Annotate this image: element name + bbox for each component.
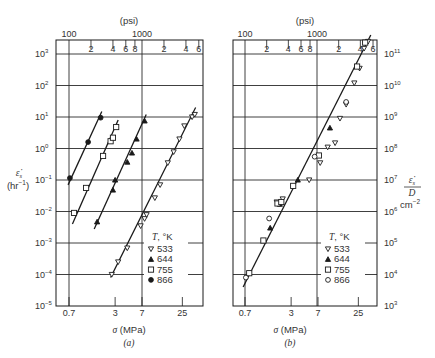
svg-text:4: 4 xyxy=(286,44,291,54)
svg-text:100: 100 xyxy=(35,143,49,154)
svg-text:1010: 1010 xyxy=(384,80,401,91)
svg-text:1000: 1000 xyxy=(132,29,152,39)
panel-b-x-axis-label: σ (MPa) xyxy=(273,324,306,335)
panel-b-caption: (b) xyxy=(284,338,295,349)
svg-text:6: 6 xyxy=(299,44,304,54)
svg-text:25: 25 xyxy=(177,308,187,318)
svg-text:ε̇s: ε̇s xyxy=(409,175,416,186)
svg-text:ε̇s: ε̇s xyxy=(16,168,23,179)
svg-text:866: 866 xyxy=(334,274,350,285)
svg-text:866: 866 xyxy=(157,274,173,285)
panel-a-x-axis-label: σ (MPa) xyxy=(112,324,145,335)
svg-text:104: 104 xyxy=(384,269,398,280)
svg-text:25: 25 xyxy=(353,308,363,318)
svg-text:10−3: 10−3 xyxy=(35,237,53,248)
svg-text:0.7: 0.7 xyxy=(239,308,252,318)
svg-text:3: 3 xyxy=(113,308,118,318)
svg-text:2: 2 xyxy=(264,44,269,54)
panel-a-x-ticks: 0.73725 xyxy=(63,297,188,318)
svg-text:100: 100 xyxy=(237,29,252,39)
svg-text:10−4: 10−4 xyxy=(35,269,53,280)
panel-a-top-ticks: 10010002468246 xyxy=(61,29,201,54)
panel-a-plot: (psi) 10010002468246 10310210110010−110−… xyxy=(7,15,203,349)
svg-text:3: 3 xyxy=(289,308,294,318)
svg-text:105: 105 xyxy=(384,237,398,248)
svg-text:102: 102 xyxy=(35,80,49,91)
svg-text:106: 106 xyxy=(384,206,398,217)
svg-text:7: 7 xyxy=(315,308,320,318)
panel-a-caption: (a) xyxy=(123,338,134,349)
svg-text:0.7: 0.7 xyxy=(63,308,76,318)
panel-b-x-ticks: 0.73725 xyxy=(239,297,364,318)
svg-text:1011: 1011 xyxy=(384,48,401,59)
svg-text:T, °K: T, °K xyxy=(329,231,350,242)
svg-text:10−5: 10−5 xyxy=(35,300,53,311)
panel-b-psi-label: (psi) xyxy=(296,15,314,26)
panel-b-legend: T, °K533644755866 xyxy=(321,230,365,288)
svg-text:8: 8 xyxy=(308,44,313,54)
svg-text:4: 4 xyxy=(110,44,115,54)
svg-text:8: 8 xyxy=(132,44,137,54)
panel-a-y-ticks: 10310210110010−110−210−310−410−5 xyxy=(35,48,53,311)
svg-text:107: 107 xyxy=(384,174,398,185)
svg-text:D: D xyxy=(408,188,416,198)
svg-text:10−2: 10−2 xyxy=(35,206,53,217)
svg-text:2: 2 xyxy=(336,44,341,54)
panel-a-y-axis-label: ε̇s (hr−1) xyxy=(7,168,29,191)
panel-b-y-axis-label: ε̇s D cm−2 xyxy=(400,175,421,210)
panel-b-y-ticks: 10111010109108107106105104103 xyxy=(384,48,401,311)
svg-text:6: 6 xyxy=(371,44,376,54)
svg-text:2: 2 xyxy=(161,44,166,54)
svg-text:4: 4 xyxy=(183,44,188,54)
svg-text:2: 2 xyxy=(88,44,93,54)
svg-text:1000: 1000 xyxy=(307,29,327,39)
panel-a-psi-label: (psi) xyxy=(120,15,138,26)
svg-text:103: 103 xyxy=(35,48,49,59)
svg-text:10−1: 10−1 xyxy=(35,174,53,185)
svg-text:109: 109 xyxy=(384,111,398,122)
svg-text:100: 100 xyxy=(61,29,76,39)
svg-text:(hr−1): (hr−1) xyxy=(7,179,29,191)
panel-a-legend: T, °K533644755866 xyxy=(144,230,188,288)
panel-b-top-ticks: 10010002468246 xyxy=(237,29,375,54)
svg-text:101: 101 xyxy=(35,111,49,122)
svg-text:6: 6 xyxy=(123,44,128,54)
svg-text:6: 6 xyxy=(196,44,201,54)
svg-text:7: 7 xyxy=(139,308,144,318)
panel-b-plot: (psi) 10010002468246 1011101010910810710… xyxy=(233,15,421,349)
creep-rate-figure: (psi) 10010002468246 10310210110010−110−… xyxy=(0,0,435,358)
svg-text:103: 103 xyxy=(384,300,398,311)
svg-text:108: 108 xyxy=(384,143,398,154)
svg-text:T, °K: T, °K xyxy=(152,231,173,242)
svg-text:cm−2: cm−2 xyxy=(400,198,420,210)
